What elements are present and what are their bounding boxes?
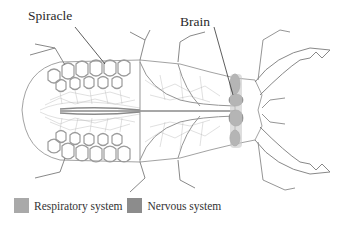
legend-label-nervous: Nervous system xyxy=(147,200,221,212)
legend: Respiratory system Nervous system xyxy=(14,198,226,213)
nervous-swatch xyxy=(127,198,142,213)
mandibles xyxy=(255,48,330,174)
ventral-nerve-cord xyxy=(60,108,235,115)
legend-item-nervous: Nervous system xyxy=(127,198,221,213)
spiracle-label: Spiracle xyxy=(28,8,72,24)
head-shading xyxy=(230,74,242,148)
brain-pointer xyxy=(214,27,233,95)
brain-label: Brain xyxy=(180,14,210,30)
spiracle-cells-lower xyxy=(48,131,130,163)
legend-label-respiratory: Respiratory system xyxy=(34,200,122,212)
legend-item-respiratory: Respiratory system xyxy=(14,198,122,213)
spiracle-pointer xyxy=(75,27,105,64)
respiratory-swatch xyxy=(14,198,29,213)
spiracle-cells-upper xyxy=(48,60,130,92)
